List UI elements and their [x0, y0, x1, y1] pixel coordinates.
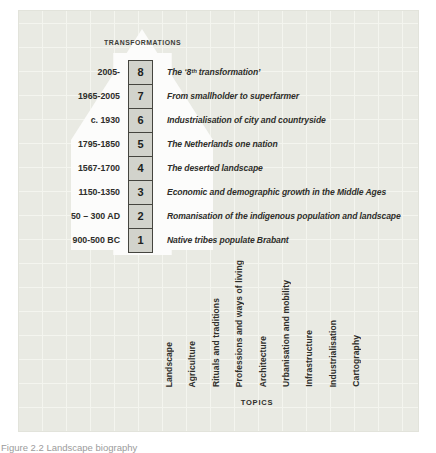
transformation-label: From smallholder to superfarmer [167, 84, 299, 109]
transformation-label: The Netherlands one nation [167, 132, 278, 157]
period-label: 50 – 300 AD [18, 204, 120, 229]
period-label: 1567-1700 [18, 156, 120, 181]
topic-label: Cartography [351, 335, 361, 387]
transformation-row: 900-500 BC 1 Native tribes populate Brab… [0, 228, 436, 253]
number-box: 4 [128, 156, 153, 181]
number-box: 5 [128, 132, 153, 157]
transformation-row: c. 1930 6 Industrialisation of city and … [0, 108, 436, 133]
number-box: 2 [128, 204, 153, 229]
topic-label: Agriculture [187, 341, 197, 387]
period-label: 900-500 BC [18, 228, 120, 253]
transformation-row: 1567-1700 4 The deserted landscape [0, 156, 436, 181]
figure-canvas: TRANSFORMATIONS 2005- 8 The ‘8ᵗʰ transfo… [0, 0, 436, 453]
topic-label: Urbanisation and mobility [281, 280, 291, 387]
number-box: 1 [128, 228, 153, 253]
topics-axis-title: TOPICS [217, 398, 297, 407]
topic-label: Architecture [258, 336, 268, 387]
period-label: 1795-1850 [18, 132, 120, 157]
transformation-label: Romanisation of the indigenous populatio… [167, 204, 401, 229]
number-box: 7 [128, 84, 153, 109]
number-box: 6 [128, 108, 153, 133]
topic-label: Rituals and traditions [211, 298, 221, 387]
figure-caption: Figure 2.2 Landscape biography [1, 441, 137, 453]
number-box: 8 [128, 60, 153, 85]
transformation-label: Industrialisation of city and countrysid… [167, 108, 326, 133]
transformation-label: Native tribes populate Brabant [167, 228, 289, 253]
transformation-label: The ‘8ᵗʰ transformation’ [167, 60, 260, 85]
transformation-row: 1150-1350 3 Economic and demographic gro… [0, 180, 436, 205]
transformation-label: Economic and demographic growth in the M… [167, 180, 386, 205]
period-label: c. 1930 [18, 108, 120, 133]
period-label: 1150-1350 [18, 180, 120, 205]
topic-label: Infrastructure [304, 330, 314, 387]
topic-label: Landscape [164, 342, 174, 387]
period-label: 1965-2005 [18, 84, 120, 109]
transformation-label: The deserted landscape [167, 156, 263, 181]
period-label: 2005- [18, 60, 120, 85]
transformation-row: 50 – 300 AD 2 Romanisation of the indige… [0, 204, 436, 229]
transformation-row: 1965-2005 7 From smallholder to superfar… [0, 84, 436, 109]
transformation-row: 1795-1850 5 The Netherlands one nation [0, 132, 436, 157]
transformation-row: 2005- 8 The ‘8ᵗʰ transformation’ [0, 60, 436, 85]
topic-label: Industrialisation [328, 320, 338, 387]
transformations-title: TRANSFORMATIONS [104, 38, 181, 48]
number-box: 3 [128, 180, 153, 205]
topic-label: Professions and ways of living [234, 260, 244, 387]
